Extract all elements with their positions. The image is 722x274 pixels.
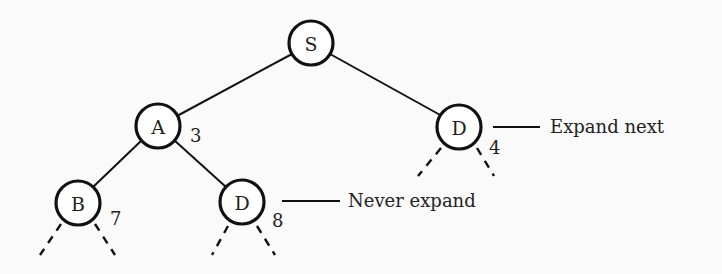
edge-s-a [177, 54, 292, 116]
edge-a-d [174, 140, 226, 187]
cost-label-b: 7 [110, 208, 121, 229]
dashed-branch [418, 148, 441, 176]
node-d-bottom: D [220, 180, 264, 224]
node-a: A [136, 104, 180, 148]
svg-text:D: D [234, 192, 249, 214]
edge-s-d [330, 54, 442, 116]
node-d-right: D [437, 105, 481, 149]
cost-label-d-bottom: 8 [272, 210, 283, 231]
dashed-branch [212, 226, 228, 255]
dashed-branch [40, 224, 61, 255]
node-s: S [289, 21, 333, 65]
edge-a-b [92, 140, 142, 188]
cost-label-d-right: 4 [489, 137, 500, 158]
svg-text:S: S [304, 33, 317, 55]
node-b: B [56, 181, 100, 225]
annotation-never-expand: Never expand [348, 190, 476, 211]
cost-label-a: 3 [190, 125, 201, 146]
svg-text:D: D [451, 117, 466, 139]
svg-text:A: A [150, 116, 165, 138]
search-tree-diagram: S A D B D 3 4 7 8 Expand next Never expa… [0, 0, 722, 274]
annotation-expand-next: Expand next [550, 116, 665, 137]
svg-text:B: B [71, 193, 85, 215]
